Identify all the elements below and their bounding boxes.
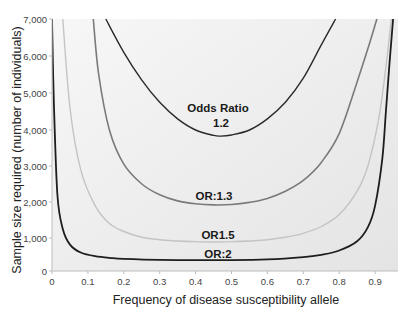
x-tick-label: 0.8 <box>333 276 346 287</box>
x-tick-label: 0 <box>49 276 54 287</box>
y-tick-label: 4,000 <box>23 125 47 136</box>
x-tick-label: 0.3 <box>153 276 166 287</box>
y-tick-label: 1,000 <box>23 233 47 244</box>
y-tick-label: 2,000 <box>23 197 47 208</box>
y-tick-label: 5,000 <box>23 88 47 99</box>
y-tick-label: 7,000 <box>23 14 47 25</box>
x-axis-label: Frequency of disease susceptibility alle… <box>113 293 340 307</box>
curve-label-or15: OR1.5 <box>201 229 235 241</box>
x-tick-label: 0.2 <box>117 276 130 287</box>
curve-label-or2: OR:2 <box>204 248 231 260</box>
y-tick-label: 3,000 <box>23 161 47 172</box>
y-axis-ticks: 01,0002,0003,0004,0005,0006,0007,000 <box>23 14 52 277</box>
curve-label-or12-line2: 1.2 <box>213 117 229 129</box>
x-tick-label: 0.7 <box>297 276 310 287</box>
x-tick-label: 0.4 <box>189 276 202 287</box>
x-axis-ticks: 00.10.20.30.40.50.60.70.80.9 <box>49 271 381 287</box>
x-tick-label: 0.5 <box>225 276 238 287</box>
x-tick-label: 0.9 <box>368 276 381 287</box>
curve-label-or13: OR:1.3 <box>195 190 232 202</box>
y-tick-label: 6,000 <box>23 51 47 62</box>
y-tick-label: 0 <box>42 266 47 277</box>
y-axis-label: Sample size required (number of individu… <box>10 26 24 273</box>
x-tick-label: 0.6 <box>261 276 274 287</box>
x-tick-label: 0.1 <box>81 276 94 287</box>
sample-size-chart: 01,0002,0003,0004,0005,0006,0007,000 00.… <box>0 0 411 314</box>
curve-label-or12-line1: Odds Ratio <box>187 102 248 114</box>
